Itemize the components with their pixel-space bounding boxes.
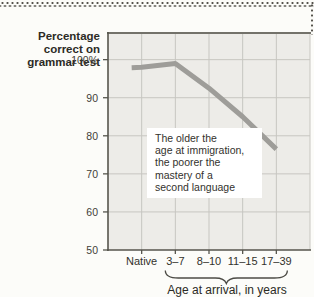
annotation-line: the poorer the <box>155 156 262 168</box>
figure-panel: Percentage correct on grammar test 50607… <box>0 0 314 297</box>
annotation-box: The older the age at immigration, the po… <box>147 128 262 198</box>
x-axis-title: Age at arrival, in years <box>147 283 307 297</box>
annotation-line: mastery of a <box>155 169 262 181</box>
annotation-line: age at immigration, <box>155 144 262 156</box>
annotation-line: The older the <box>155 132 262 144</box>
brace <box>165 271 287 284</box>
annotation-line: second language <box>155 181 262 193</box>
